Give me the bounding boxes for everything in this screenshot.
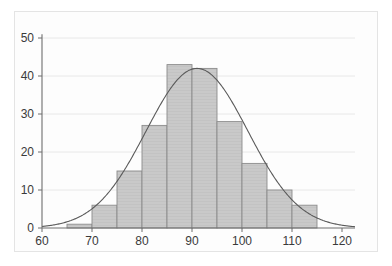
- histogram-bar: [92, 205, 117, 228]
- y-tick-label: 20: [21, 145, 35, 159]
- y-tick-label: 40: [21, 69, 35, 83]
- histogram-bar: [117, 171, 142, 228]
- histogram-plot: 01020304050 60708090100110120: [0, 0, 392, 266]
- y-tick-label: 10: [21, 183, 35, 197]
- histogram-bar: [217, 122, 242, 228]
- x-tick-label: 80: [135, 234, 149, 248]
- histogram-bars: [67, 65, 317, 228]
- histogram-bar: [192, 68, 217, 228]
- x-tick-label: 100: [232, 234, 252, 248]
- y-axis-ticks: 01020304050: [21, 31, 42, 235]
- histogram-bar: [142, 125, 167, 228]
- y-tick-label: 0: [27, 221, 34, 235]
- y-tick-label: 30: [21, 107, 35, 121]
- x-axis-ticks: 60708090100110120: [35, 228, 352, 248]
- x-tick-label: 120: [332, 234, 352, 248]
- x-tick-label: 90: [185, 234, 199, 248]
- y-tick-label: 50: [21, 31, 35, 45]
- x-tick-label: 60: [35, 234, 49, 248]
- histogram-bar: [67, 224, 92, 228]
- x-tick-label: 110: [282, 234, 301, 248]
- histogram-figure: 01020304050 60708090100110120: [0, 0, 392, 266]
- histogram-bar: [242, 163, 267, 228]
- x-tick-label: 70: [85, 234, 99, 248]
